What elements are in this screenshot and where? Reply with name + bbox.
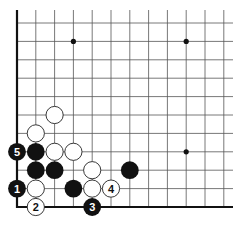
black-stone-icon (121, 161, 139, 179)
white-stone-icon (65, 143, 82, 160)
black-stone-icon (46, 161, 64, 179)
white-stone-icon (46, 106, 63, 123)
star-point (71, 39, 76, 44)
move-number: 3 (89, 201, 95, 213)
white-stone (46, 106, 63, 123)
white-stone (27, 180, 44, 197)
white-stone (84, 180, 101, 197)
black-stone-3: 3 (83, 198, 101, 216)
black-stone-icon (65, 180, 83, 198)
white-stone-icon (27, 180, 44, 197)
white-stone-4: 4 (102, 180, 119, 197)
star-point (184, 39, 189, 44)
white-stone (65, 143, 82, 160)
move-number: 4 (108, 183, 115, 195)
go-board-diagram: 12345 (0, 0, 247, 227)
black-stone (27, 161, 45, 179)
white-stone-icon (27, 125, 44, 142)
black-stone-icon (27, 161, 45, 179)
black-stone (65, 180, 83, 198)
black-stone (121, 161, 139, 179)
white-stone-icon (46, 143, 63, 160)
black-stone (27, 143, 45, 161)
white-stone (27, 125, 44, 142)
black-stone (46, 161, 64, 179)
move-number: 1 (14, 183, 20, 195)
white-stone-icon (84, 162, 101, 179)
white-stone (84, 162, 101, 179)
move-number: 5 (14, 146, 20, 158)
black-stone-icon (27, 143, 45, 161)
star-point (184, 149, 189, 154)
black-stone-5: 5 (8, 143, 26, 161)
white-stone-icon (84, 180, 101, 197)
white-stone (46, 143, 63, 160)
white-stone-2: 2 (27, 198, 44, 215)
black-stone-1: 1 (8, 180, 26, 198)
move-number: 2 (33, 201, 39, 213)
